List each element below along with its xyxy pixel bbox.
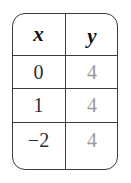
- cell-x-value: 0: [34, 62, 44, 82]
- cell-y-value: 4: [87, 62, 97, 82]
- cell-x-value: −2: [28, 130, 49, 150]
- column-header-x-label: x: [33, 24, 44, 45]
- cell-y-value: 4: [87, 95, 97, 115]
- table-row: 1: [12, 88, 65, 122]
- table-row: 4: [66, 88, 118, 122]
- cell-y-value: 4: [87, 130, 97, 150]
- table-row: −2: [12, 122, 65, 170]
- table-header-cell-x: x: [12, 13, 65, 55]
- table-row: 4: [66, 122, 118, 170]
- table-row: 0: [12, 55, 65, 88]
- column-header-y-label: y: [87, 26, 96, 47]
- table-row: 4: [66, 55, 118, 88]
- function-table-figure: x y 0 4 1 4 −2 4: [0, 0, 131, 183]
- table-header-cell-y: y: [66, 13, 118, 55]
- cell-x-value: 1: [34, 95, 44, 115]
